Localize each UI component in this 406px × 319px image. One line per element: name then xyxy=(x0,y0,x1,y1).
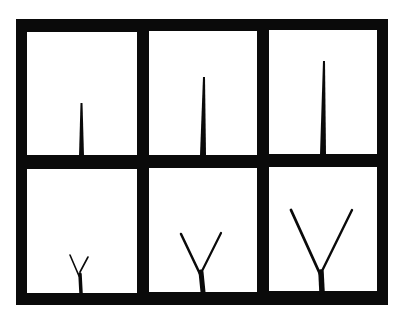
shoot-icon xyxy=(320,61,326,154)
shoot-icon xyxy=(200,77,206,155)
forked-shoot-icon xyxy=(70,255,88,293)
shoots-drawing xyxy=(0,0,406,319)
shoot-icon xyxy=(79,103,84,156)
forked-shoot-icon xyxy=(181,233,221,292)
forked-shoot-icon xyxy=(291,210,352,292)
